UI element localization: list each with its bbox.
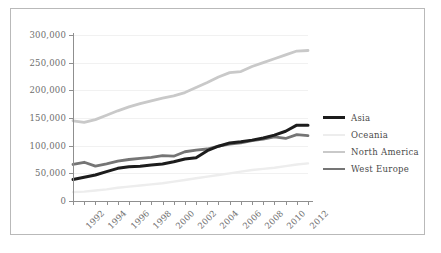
x-axis-tick <box>73 201 74 205</box>
y-axis-label: 300,000 <box>29 30 66 40</box>
legend-swatch-icon <box>323 134 345 136</box>
x-axis-tick <box>95 201 96 205</box>
legend-item-west-europe[interactable]: West Europe <box>323 160 423 177</box>
x-axis-tick <box>297 201 298 205</box>
legend-label: Oceania <box>351 130 388 140</box>
y-axis-tick <box>69 35 73 36</box>
x-axis-tick <box>286 201 287 205</box>
plot-area <box>73 35 308 201</box>
legend-label: West Europe <box>351 164 409 174</box>
x-axis-tick <box>107 201 108 205</box>
x-axis-tick <box>129 201 130 205</box>
legend-swatch-icon <box>323 151 345 153</box>
x-axis-label: 2002 <box>195 208 218 231</box>
x-axis-tick <box>241 201 242 205</box>
x-axis-tick <box>151 201 152 205</box>
y-axis-label: 150,000 <box>29 113 66 123</box>
x-axis: 1992199419961998200020022004200620082010… <box>73 201 313 202</box>
x-axis-label: 2000 <box>173 208 196 231</box>
y-axis-tick <box>69 173 73 174</box>
x-axis-tick <box>218 201 219 205</box>
x-axis-tick <box>196 201 197 205</box>
legend-item-north-america[interactable]: North America <box>323 143 423 160</box>
x-axis-tick <box>308 201 309 205</box>
y-axis-tick <box>69 90 73 91</box>
y-axis-label: 250,000 <box>29 58 66 68</box>
x-axis-tick <box>140 201 141 205</box>
x-axis-tick <box>84 201 85 205</box>
y-axis: 050,000100,000150,000200,000250,000300,0… <box>73 33 74 203</box>
series-container <box>73 35 308 201</box>
y-axis-label: 50,000 <box>35 168 66 178</box>
y-axis-tick <box>69 118 73 119</box>
legend-item-asia[interactable]: Asia <box>323 109 423 126</box>
legend-swatch-icon <box>323 116 345 119</box>
x-axis-tick <box>118 201 119 205</box>
legend-label: North America <box>351 147 419 157</box>
legend-swatch-icon <box>323 168 345 170</box>
series-line-north-america <box>73 50 308 122</box>
x-axis-tick <box>230 201 231 205</box>
legend-label: Asia <box>351 113 371 123</box>
x-axis-label: 1994 <box>106 208 129 231</box>
y-axis-tick <box>69 63 73 64</box>
y-axis-label: 100,000 <box>29 141 66 151</box>
series-line-west-europe <box>73 135 308 167</box>
x-axis-tick <box>163 201 164 205</box>
x-axis-label: 1996 <box>128 208 151 231</box>
legend-item-oceania[interactable]: Oceania <box>323 126 423 143</box>
x-axis-tick <box>252 201 253 205</box>
x-axis-tick <box>185 201 186 205</box>
x-axis-label: 2008 <box>263 208 286 231</box>
series-line-oceania <box>73 163 308 192</box>
x-axis-tick <box>174 201 175 205</box>
chart-legend: AsiaOceaniaNorth AmericaWest Europe <box>323 109 423 177</box>
chart-figure: 050,000100,000150,000200,000250,000300,0… <box>10 8 425 235</box>
x-axis-label: 1998 <box>151 208 174 231</box>
x-axis-label: 2006 <box>240 208 263 231</box>
y-axis-tick <box>69 146 73 147</box>
x-axis-tick <box>263 201 264 205</box>
y-axis-label: 0 <box>60 196 66 206</box>
y-axis-label: 200,000 <box>29 85 66 95</box>
x-axis-tick <box>207 201 208 205</box>
x-axis-label: 2010 <box>285 208 308 231</box>
x-axis-tick <box>274 201 275 205</box>
x-axis-label: 2004 <box>218 208 241 231</box>
x-axis-label: 1992 <box>84 208 107 231</box>
x-axis-label: 2012 <box>307 208 330 231</box>
